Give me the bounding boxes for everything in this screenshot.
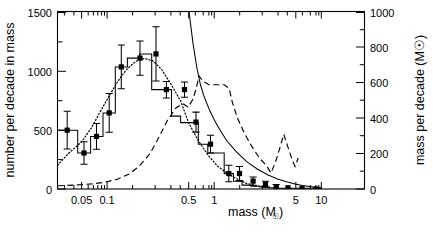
mass-per-decade-curve (58, 76, 298, 186)
ytick-1500: 1500 (28, 7, 52, 19)
x-axis-title: mass (M ☉ ) (228, 205, 283, 221)
chart-figure: 1500 1000 500 0 1000 800 600 400 200 0 0… (0, 0, 433, 238)
imf-chart-svg: 1500 1000 500 0 1000 800 600 400 200 0 0… (0, 0, 433, 238)
ytick-500: 500 (34, 125, 52, 137)
x-tick-labels: 0.05 0.1 0.5 1 5 10 (71, 194, 328, 206)
plot-frame (58, 12, 365, 190)
y-axis-title-left: number per decade in mass (3, 23, 17, 178)
ytick-right-1000: 1000 (370, 7, 394, 19)
ytick-right-200: 200 (370, 148, 388, 160)
x-axis-title-main: mass (M (228, 205, 276, 219)
ytick-right-600: 600 (370, 77, 388, 89)
data-layer (58, 9, 322, 192)
xtick-0-05: 0.05 (71, 194, 92, 206)
xtick-5: 5 (293, 194, 299, 206)
axes-border (58, 12, 365, 190)
xtick-0-5: 0.5 (181, 194, 196, 206)
y-axis-right-main: mass per decade (M☉) (413, 35, 427, 165)
xtick-10: 10 (315, 194, 327, 206)
ytick-right-0: 0 (370, 184, 376, 196)
y-axis-title-right: mass per decade (M☉) (413, 35, 427, 165)
left-axis-ticks (58, 13, 67, 190)
left-tick-labels: 1500 1000 500 0 (28, 7, 52, 196)
xtick-1: 1 (211, 194, 217, 206)
x-axis-title-tail: ) (279, 205, 283, 219)
power-law-curve (189, 9, 322, 188)
ytick-right-400: 400 (370, 113, 388, 125)
ytick-right-800: 800 (370, 42, 388, 54)
histogram-step (58, 54, 322, 188)
ytick-0: 0 (46, 184, 52, 196)
right-tick-labels: 1000 800 600 400 200 0 (370, 7, 394, 196)
x-axis-title-sun-symbol: ☉ (272, 212, 279, 221)
right-axis-ticks (356, 13, 365, 190)
x-axis-ticks-top (64, 12, 321, 19)
errorbar-group (64, 27, 316, 189)
ytick-1000: 1000 (28, 66, 52, 78)
xtick-0-1: 0.1 (99, 194, 114, 206)
